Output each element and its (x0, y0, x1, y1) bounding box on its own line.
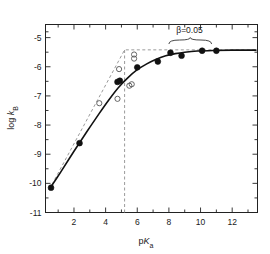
y-tick-label: -7 (34, 91, 42, 101)
beta-annotation-label: β=0.05 (176, 25, 203, 35)
filled-circle-point (213, 48, 219, 54)
y-tick-label: -6 (34, 62, 42, 72)
filled-circle-point (117, 78, 123, 84)
chart-canvas: 24681012 -11-10-9-8-7-6-5 β=0.05 pKa log… (0, 0, 270, 254)
brønsted-plot-figure: 24681012 -11-10-9-8-7-6-5 β=0.05 pKa log… (0, 0, 270, 254)
filled-circle-point (168, 50, 174, 56)
x-tick-label: 12 (227, 217, 237, 227)
filled-circle-point (77, 140, 83, 146)
y-tick-label: -8 (34, 120, 42, 130)
x-tick-labels: 24681012 (72, 217, 238, 227)
plot-frame (46, 25, 258, 213)
filled-circle-markers (48, 48, 219, 191)
filled-circle-point (155, 59, 161, 65)
filled-circle-point (179, 53, 185, 59)
solid-fit-curve (49, 50, 255, 189)
x-tick-label: 6 (135, 217, 140, 227)
filled-circle-point (199, 48, 205, 54)
y-tick-label: -10 (29, 178, 42, 188)
open-circle-point (116, 66, 121, 71)
svg-text:log kB: log kB (6, 106, 19, 130)
x-tick-label: 8 (167, 217, 172, 227)
open-circle-point (97, 101, 102, 106)
x-tick-label: 2 (72, 217, 77, 227)
open-circle-point (115, 96, 120, 101)
dashed-piecewise-fit-line (49, 50, 255, 189)
filled-circle-point (134, 64, 140, 70)
x-axis-title: pKa (139, 236, 154, 249)
filled-circle-point (48, 185, 54, 191)
y-tick-label: -11 (30, 208, 42, 218)
svg-text:pKa: pKa (139, 236, 154, 249)
y-tick-label: -9 (34, 149, 42, 159)
y-tick-label: -5 (34, 33, 42, 43)
x-tick-label: 10 (196, 217, 206, 227)
y-axis-title: log kB (6, 106, 19, 130)
y-tick-labels: -11-10-9-8-7-6-5 (29, 33, 42, 218)
axis-ticks (46, 25, 258, 213)
beta-brace (169, 38, 212, 45)
x-tick-label: 4 (103, 217, 108, 227)
